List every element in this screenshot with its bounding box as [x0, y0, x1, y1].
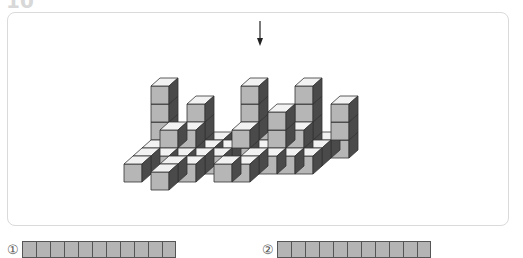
option-1-squares [22, 241, 176, 258]
cube [124, 156, 151, 182]
option-square [92, 241, 106, 258]
cube [331, 96, 358, 122]
cube [187, 96, 214, 122]
option-2-label: ② [262, 243, 274, 257]
cube [151, 78, 178, 104]
cube [232, 122, 259, 148]
option-square [277, 241, 291, 258]
option-square [162, 241, 176, 258]
option-2-squares [277, 241, 431, 258]
cube [241, 78, 268, 104]
cube [160, 122, 187, 148]
option-square [361, 241, 375, 258]
option-square [375, 241, 389, 258]
option-square [64, 241, 78, 258]
option-square [148, 241, 162, 258]
option-square [319, 241, 333, 258]
option-square [347, 241, 361, 258]
option-square [36, 241, 50, 258]
option-square [333, 241, 347, 258]
option-square [403, 241, 417, 258]
option-square [50, 241, 64, 258]
cube [295, 78, 322, 104]
option-1-label: ① [7, 243, 19, 257]
option-2[interactable]: ② [262, 241, 431, 258]
option-square [78, 241, 92, 258]
option-1[interactable]: ① [7, 241, 176, 258]
cube-structure [0, 0, 523, 230]
cube [151, 164, 178, 190]
option-square [134, 241, 148, 258]
cube [214, 156, 241, 182]
option-square [120, 241, 134, 258]
option-square [106, 241, 120, 258]
cube [268, 104, 295, 130]
option-square [389, 241, 403, 258]
option-square [291, 241, 305, 258]
option-square [305, 241, 319, 258]
option-square [417, 241, 431, 258]
option-square [22, 241, 36, 258]
